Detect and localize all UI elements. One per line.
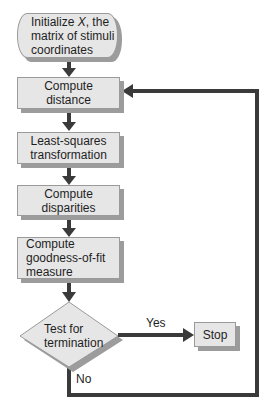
no-label: No	[76, 372, 91, 386]
compute-disparities-node: Compute disparities	[17, 185, 120, 216]
least-squares-line-1: Least-squares	[30, 134, 107, 148]
goodness-of-fit-node: Compute goodness-of-fit measure	[17, 237, 120, 279]
init-line-3: coordinates	[31, 43, 114, 57]
test-line-2: termination	[44, 336, 103, 350]
gof-line-2: goodness-of-fit	[26, 251, 105, 265]
gof-line-1: Compute	[26, 237, 105, 251]
initialize-node: Initialize X, the matrix of stimuli coor…	[17, 13, 118, 58]
compute-disparities-line-1: Compute	[41, 187, 95, 201]
gof-line-3: measure	[26, 265, 105, 279]
least-squares-node: Least-squares transformation	[17, 132, 120, 164]
test-termination-label: Test for termination	[44, 322, 103, 350]
init-text-post: , the	[86, 15, 109, 29]
init-text-pre: Initialize	[31, 15, 78, 29]
test-line-1: Test for	[44, 322, 103, 336]
compute-distance-node: Compute distance	[17, 77, 120, 109]
least-squares-line-2: transformation	[30, 148, 107, 162]
stop-label: Stop	[203, 328, 228, 342]
init-var-x: X	[78, 15, 86, 29]
compute-disparities-line-2: disparities	[41, 201, 95, 215]
yes-label: Yes	[146, 316, 166, 330]
init-line-2: matrix of stimuli	[31, 29, 114, 43]
compute-distance-line-1: Compute	[44, 79, 93, 93]
stop-node: Stop	[194, 322, 236, 347]
compute-distance-line-2: distance	[44, 93, 93, 107]
